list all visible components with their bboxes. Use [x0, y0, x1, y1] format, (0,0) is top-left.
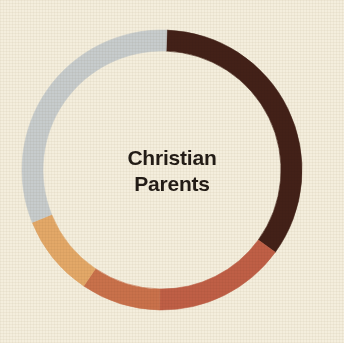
donut-slice[interactable]: [84, 269, 160, 310]
donut-slice[interactable]: [160, 240, 276, 310]
donut-chart: Christian Parents: [0, 0, 344, 343]
chart-page: Christian Parents: [0, 0, 344, 343]
donut-slice[interactable]: [22, 30, 167, 222]
donut-chart-svg: [0, 0, 344, 343]
donut-slice[interactable]: [32, 215, 95, 286]
donut-slice-group: [22, 30, 302, 310]
donut-slice[interactable]: [166, 30, 302, 252]
